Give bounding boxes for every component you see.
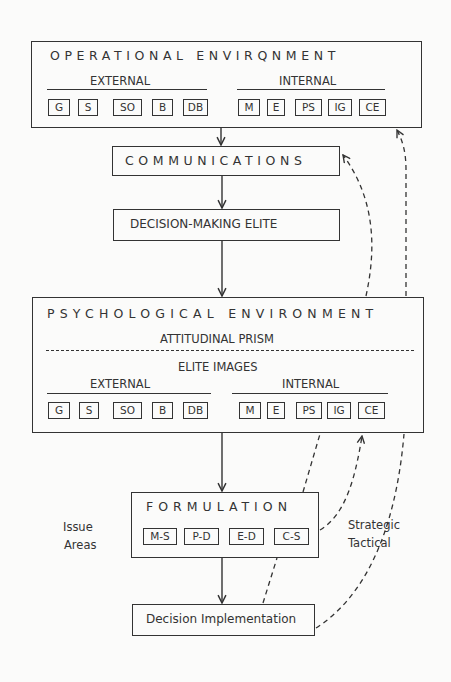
operational-internal-label: INTERNAL bbox=[279, 74, 336, 88]
issue-areas-label-line1: Issue bbox=[63, 520, 93, 534]
psychological-external-item: B bbox=[152, 402, 173, 419]
operational-external-rule bbox=[47, 89, 207, 90]
feedback-formulation-to-psychological-left bbox=[303, 434, 320, 492]
communications-title: COMMUNICATIONS bbox=[125, 153, 306, 168]
psychological-environment-title: PSYCHOLOGICAL ENVIRONMENT bbox=[47, 306, 378, 321]
formulation-issue-item: M-S bbox=[143, 528, 177, 545]
formulation-title: FORMULATION bbox=[146, 499, 292, 514]
psychological-external-label: EXTERNAL bbox=[90, 377, 150, 391]
feedback-to-operational bbox=[397, 130, 406, 296]
operational-external-item: S bbox=[78, 99, 98, 116]
attitudinal-prism-divider bbox=[46, 350, 414, 351]
formulation-issue-item: C-S bbox=[274, 528, 309, 545]
psychological-external-item: G bbox=[48, 402, 70, 419]
operational-external-label: EXTERNAL bbox=[90, 74, 150, 88]
psychological-internal-rule bbox=[232, 393, 388, 394]
psychological-internal-item: E bbox=[267, 402, 285, 419]
operational-external-item: DB bbox=[183, 99, 208, 116]
feedback-formulation-to-psychological bbox=[320, 436, 362, 530]
feedback-implementation-to-formulation bbox=[263, 558, 277, 603]
tactical-label: Tactical bbox=[348, 536, 391, 550]
operational-internal-item: M bbox=[238, 99, 260, 116]
operational-internal-item: IG bbox=[328, 99, 352, 116]
formulation-issue-item: P-D bbox=[184, 528, 219, 545]
psychological-internal-item: PS bbox=[296, 402, 322, 419]
feedback-psychological-to-communications bbox=[343, 155, 372, 296]
operational-internal-item: CE bbox=[359, 99, 386, 116]
operational-internal-item: E bbox=[267, 99, 285, 116]
operational-internal-item: PS bbox=[295, 99, 322, 116]
decision-implementation-title: Decision Implementation bbox=[146, 612, 296, 626]
attitudinal-prism-label: ATTITUDINAL PRISM bbox=[160, 332, 274, 346]
operational-environment-title: OPERATIONAL ENVIRQNMENT bbox=[50, 48, 340, 63]
psychological-external-rule bbox=[47, 393, 211, 394]
psychological-external-item: DB bbox=[183, 402, 208, 419]
operational-external-item: SO bbox=[113, 99, 142, 116]
issue-areas-label-line2: Areas bbox=[64, 538, 96, 552]
psychological-internal-item: CE bbox=[358, 402, 385, 419]
formulation-issue-item: E-D bbox=[229, 528, 264, 545]
operational-external-item: G bbox=[48, 99, 70, 116]
operational-internal-rule bbox=[237, 89, 385, 90]
psychological-internal-item: IG bbox=[327, 402, 351, 419]
elite-images-label: ELITE IMAGES bbox=[178, 360, 257, 374]
psychological-external-item: SO bbox=[113, 402, 142, 419]
strategic-label: Strategic bbox=[348, 518, 400, 532]
decision-making-elite-title: DECISION-MAKING ELITE bbox=[130, 217, 277, 231]
psychological-internal-label: INTERNAL bbox=[282, 377, 339, 391]
psychological-external-item: S bbox=[79, 402, 99, 419]
operational-external-item: B bbox=[152, 99, 173, 116]
psychological-internal-item: M bbox=[239, 402, 261, 419]
